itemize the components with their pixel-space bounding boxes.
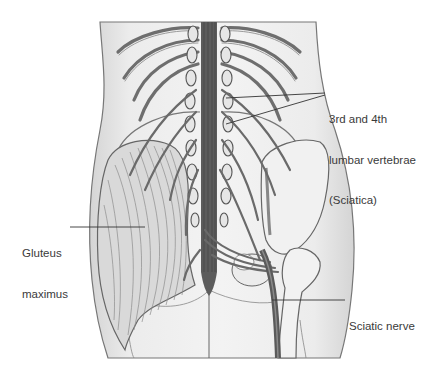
label-lumbar-vertebrae: 3rd and 4th lumbar vertebrae (Sciatica)	[329, 86, 416, 235]
spinal-cord	[201, 22, 217, 296]
label-line: Sciatic nerve	[349, 320, 415, 334]
label-line: maximus	[22, 288, 68, 302]
label-sciatic-nerve: Sciatic nerve	[349, 293, 415, 361]
anatomy-diagram: 3rd and 4th lumbar vertebrae (Sciatica) …	[0, 0, 439, 376]
label-line: lumbar vertebrae	[329, 154, 416, 168]
label-line: 3rd and 4th	[329, 113, 416, 127]
label-line: (Sciatica)	[329, 194, 416, 208]
label-gluteus-maximus: Gluteus maximus	[22, 220, 68, 328]
label-line: Gluteus	[22, 247, 68, 261]
